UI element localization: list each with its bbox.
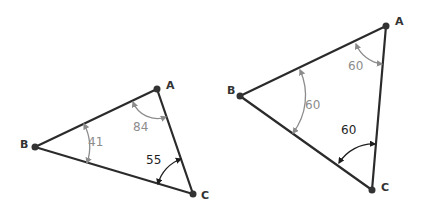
vertex-label-c: C — [381, 181, 389, 194]
edge-ab — [240, 26, 386, 96]
vertex-label-b: B — [20, 138, 28, 151]
vertex-label-a: A — [166, 79, 175, 92]
angle-arc-b — [293, 70, 306, 133]
angle-arc-a — [133, 102, 166, 119]
vertex-c — [369, 187, 376, 194]
vertex-c — [190, 191, 197, 198]
vertex-b — [237, 93, 244, 100]
vertex-label-a: A — [395, 15, 404, 28]
angle-arc-c — [158, 159, 181, 184]
right-triangle: A B C 60 60 60 — [227, 15, 404, 194]
edge-bc — [35, 147, 193, 194]
vertex-a — [383, 23, 390, 30]
angle-label-a: 60 — [348, 59, 363, 73]
vertex-a — [154, 86, 161, 93]
angle-label-a: 84 — [133, 120, 148, 134]
angle-label-b: 41 — [88, 135, 103, 149]
angle-label-c: 55 — [146, 153, 161, 167]
triangles-diagram: A B C 84 41 55 A B C 60 60 60 — [0, 0, 427, 211]
edge-ca — [372, 26, 386, 190]
angle-label-c: 60 — [341, 123, 356, 137]
vertex-b — [32, 144, 39, 151]
edge-ca — [157, 89, 193, 194]
angle-arc-c — [339, 144, 375, 163]
vertex-label-c: C — [201, 189, 209, 202]
left-triangle: A B C 84 41 55 — [20, 79, 209, 202]
angle-label-b: 60 — [305, 98, 320, 112]
vertex-label-b: B — [227, 84, 235, 97]
